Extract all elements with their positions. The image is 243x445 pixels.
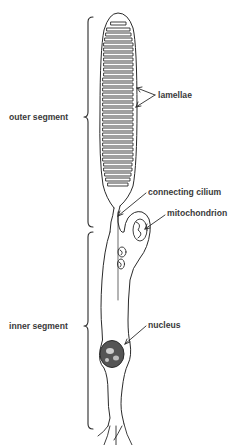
outer-segment-brace [84,17,93,227]
connecting-cilium-label: connecting cilium [148,187,221,197]
outer-segment-label: outer segment [9,112,68,122]
inner-segment-brace [84,232,93,429]
inner-segment-label: inner segment [9,321,68,331]
inner-segment-membrane [100,206,151,426]
lamellae-arrow-lower [136,95,155,107]
outer-segment-membrane [100,13,137,208]
rod-cell-diagram: outer segment inner segment lamellae con… [0,0,243,445]
lamellae-stack [103,22,133,186]
synaptic-terminal [98,424,132,445]
mitochondria [118,219,148,269]
nucleus-label: nucleus [148,320,181,330]
lamellae-label: lamellae [158,90,192,100]
nucleus [100,341,124,368]
mitochondrion-label: mitochondrion [167,208,227,218]
connecting-cilium [110,208,114,232]
